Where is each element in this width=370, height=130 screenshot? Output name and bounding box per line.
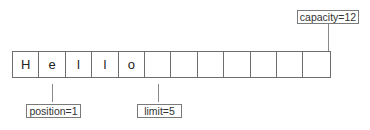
limit-pointer-line <box>158 84 159 102</box>
buffer-cell-8 <box>224 52 250 77</box>
buffer-cell-1: e <box>39 52 65 77</box>
buffer-cell-3: l <box>92 52 118 77</box>
buffer-cell-9 <box>251 52 277 77</box>
position-label: position=1 <box>26 104 81 118</box>
buffer-cell-7 <box>198 52 224 77</box>
byte-buffer: H e l l o <box>12 51 331 78</box>
buffer-cell-6 <box>171 52 197 77</box>
limit-label: limit=5 <box>137 104 182 118</box>
capacity-pointer-line <box>328 24 329 51</box>
buffer-cell-0: H <box>13 52 39 77</box>
buffer-cell-4: o <box>119 52 145 77</box>
position-pointer-line <box>52 84 53 102</box>
capacity-label: capacity=12 <box>297 10 359 24</box>
buffer-cell-10 <box>277 52 303 77</box>
buffer-cell-5 <box>145 52 171 77</box>
buffer-cell-11 <box>303 52 329 77</box>
buffer-cell-2: l <box>66 52 92 77</box>
